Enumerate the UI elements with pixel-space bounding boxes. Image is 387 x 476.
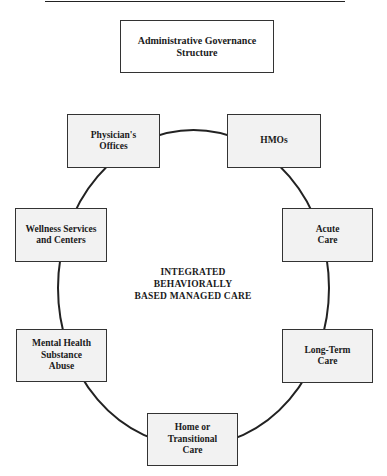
node-label: Wellness Services and Centers [26, 224, 97, 247]
node-label: Home or Transitional Care [168, 422, 217, 457]
node-wellness-services-centers: Wellness Services and Centers [15, 208, 107, 262]
node-label: Long-Term Care [304, 345, 350, 368]
node-home-transitional-care: Home or Transitional Care [147, 413, 238, 466]
node-label: Physician's Offices [91, 130, 136, 153]
node-label: Mental Health Substance Abuse [32, 338, 91, 373]
node-label: HMOs [260, 135, 287, 147]
node-physicians-offices: Physician's Offices [67, 114, 160, 168]
center-label: INTEGRATED BEHAVIORALLY BASED MANAGED CA… [103, 266, 283, 302]
node-label: Acute Care [316, 224, 340, 247]
node-mental-health-substance-abuse: Mental Health Substance Abuse [16, 329, 107, 382]
node-hmos: HMOs [227, 114, 321, 168]
node-acute-care: Acute Care [282, 208, 373, 262]
node-long-term-care: Long-Term Care [282, 329, 373, 383]
